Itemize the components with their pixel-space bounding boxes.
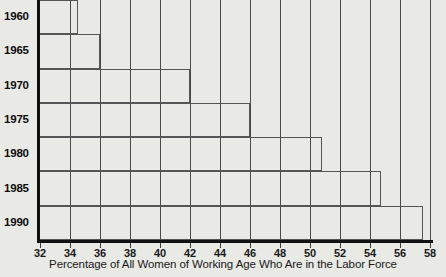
bar-1965 xyxy=(40,34,100,68)
y-axis-label-1970: 1970 xyxy=(4,79,29,91)
bar-1975 xyxy=(40,103,250,137)
y-axis-label-1965: 1965 xyxy=(4,44,29,56)
bar-1960 xyxy=(40,0,78,34)
gridline-56 xyxy=(400,0,401,240)
chart-container: 1960196519701975198019851990 32343638404… xyxy=(0,0,446,277)
bar-1970 xyxy=(40,69,190,103)
bar-1980 xyxy=(40,137,322,171)
y-axis-label-1960: 1960 xyxy=(4,10,29,22)
gridline-58 xyxy=(430,0,431,240)
bar-1990 xyxy=(40,206,423,240)
y-axis-label-1990: 1990 xyxy=(4,216,29,228)
x-axis-baseline xyxy=(37,240,433,243)
y-axis-label-1980: 1980 xyxy=(4,147,29,159)
y-axis-label-1985: 1985 xyxy=(4,182,29,194)
x-axis-title: Percentage of All Women of Working Age W… xyxy=(0,258,446,270)
bar-1985 xyxy=(40,171,381,205)
y-axis-label-1975: 1975 xyxy=(4,113,29,125)
